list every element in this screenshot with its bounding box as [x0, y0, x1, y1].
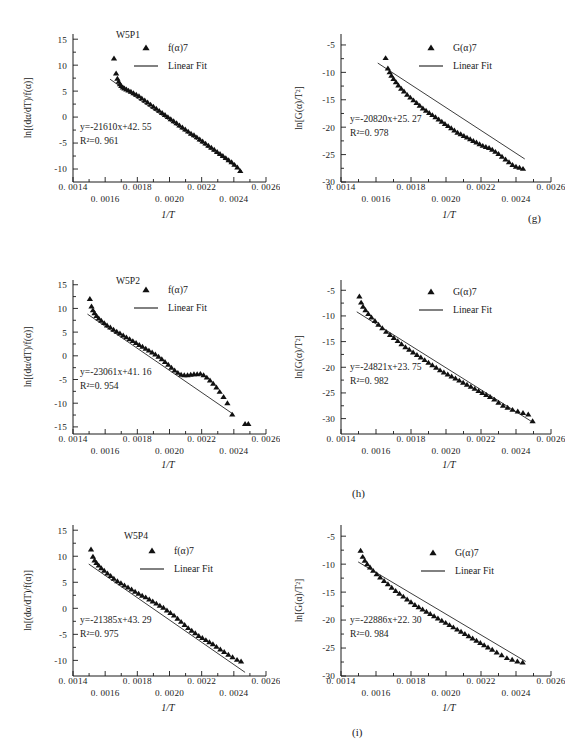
- x-tick-label: 0. 0026: [252, 182, 280, 192]
- data-point-marker: [113, 71, 119, 76]
- linear-fit-line: [358, 562, 525, 662]
- y-tick-label: 0: [62, 604, 67, 614]
- y-tick-label: -5: [59, 375, 67, 385]
- x-tick-label: 0. 0016: [91, 688, 120, 698]
- y-tick-label: -30: [322, 414, 335, 424]
- y-tick-label: 10: [57, 304, 67, 314]
- chart-legend: f(α)7Linear Fit: [134, 42, 207, 71]
- x-tick-label: 0. 0014: [59, 434, 88, 444]
- x-tick-label: 0. 0026: [252, 676, 280, 686]
- y-tick-label: -15: [322, 95, 335, 105]
- chart-i-left-svg: 151050-5-100. 00140. 00160. 00180. 00200…: [18, 513, 280, 725]
- legend-label-series: G(α)7: [453, 42, 477, 54]
- legend-marker-icon: [142, 287, 149, 293]
- y-tick-label: -25: [322, 643, 335, 653]
- legend-label-fit: Linear Fit: [168, 302, 207, 313]
- chart-legend: f(α)7Linear Fit: [134, 284, 207, 313]
- chart-panel-g-left: 151050-5-100. 00140. 00160. 00180. 00200…: [18, 22, 280, 232]
- x-tick-label: 0. 0024: [219, 688, 248, 698]
- data-point-marker: [499, 652, 505, 657]
- legend-label-series: f(α)7: [168, 42, 188, 54]
- x-tick-label: 0. 0024: [502, 194, 531, 204]
- legend-label-fit: Linear Fit: [455, 565, 494, 576]
- data-series-markers: [88, 547, 244, 664]
- y-tick-label: -15: [322, 588, 335, 598]
- legend-label-fit: Linear Fit: [453, 60, 492, 71]
- chart-h-left-svg: 151050-5-10-150. 00140. 00160. 00180. 00…: [18, 268, 280, 483]
- r-squared-label: R²=0. 978: [350, 127, 389, 138]
- x-tick-label: 0. 0018: [123, 182, 152, 192]
- legend-label-series: f(α)7: [174, 545, 194, 557]
- data-point-marker: [220, 394, 226, 399]
- y-tick-label: -10: [322, 68, 335, 78]
- x-tick-label: 0. 0018: [397, 434, 426, 444]
- x-tick-label: 0. 0020: [155, 688, 184, 698]
- x-tick-label: 0. 0026: [537, 434, 565, 444]
- y-tick-label: 5: [62, 87, 67, 97]
- chart-legend: G(α)7Linear Fit: [421, 547, 494, 576]
- data-point-marker: [114, 76, 120, 81]
- x-tick-label: 0. 0022: [187, 182, 216, 192]
- data-point-marker: [520, 660, 526, 665]
- x-tick-label: 0. 0022: [187, 434, 216, 444]
- fit-equation-label: y=-21385x+43. 29: [80, 614, 152, 625]
- y-tick-label: 0: [62, 351, 67, 361]
- y-tick-label: -15: [54, 422, 67, 432]
- legend-label-fit: Linear Fit: [453, 304, 492, 315]
- data-point-marker: [520, 410, 526, 415]
- legend-label-series: G(α)7: [455, 547, 479, 559]
- x-tick-label: 0. 0024: [219, 194, 248, 204]
- panel-letter-g: (g): [528, 212, 541, 224]
- y-axis-title: ln[(dα/dT)/f(α)]: [22, 327, 34, 388]
- y-tick-label: -5: [59, 138, 67, 148]
- x-tick-label: 0. 0014: [59, 182, 88, 192]
- y-tick-label: -20: [322, 123, 335, 133]
- x-tick-label: 0. 0020: [432, 194, 461, 204]
- y-axis-title: ln[(dα/dT)/f(α)]: [22, 78, 34, 139]
- x-tick-label: 0. 0016: [91, 446, 120, 456]
- y-tick-label: 15: [57, 526, 67, 536]
- y-tick-label: -5: [327, 286, 335, 296]
- chart-legend: G(α)7Linear Fit: [419, 286, 492, 315]
- x-tick-label: 0. 0026: [537, 676, 565, 686]
- data-series-markers: [357, 548, 525, 665]
- chart-panel-i-left: 151050-5-100. 00140. 00160. 00180. 00200…: [18, 513, 280, 725]
- x-tick-label: 0. 0020: [155, 446, 184, 456]
- y-tick-label: -10: [54, 656, 67, 666]
- x-tick-label: 0. 0016: [362, 446, 391, 456]
- data-point-marker: [356, 293, 362, 298]
- sample-label: W5P1: [116, 29, 140, 40]
- x-tick-label: 0. 0026: [537, 182, 565, 192]
- legend-marker-icon: [427, 45, 434, 51]
- chart-panel-g-right: -5-10-15-20-25-300. 00140. 00160. 00180.…: [293, 22, 565, 232]
- x-axis-title: 1/T: [161, 209, 176, 220]
- fit-equation-label: y=-20820x+25. 27: [350, 113, 422, 124]
- x-tick-label: 0. 0018: [397, 182, 426, 192]
- y-tick-label: 15: [57, 280, 67, 290]
- y-tick-label: -5: [327, 40, 335, 50]
- y-tick-label: -20: [322, 363, 335, 373]
- data-point-marker: [358, 300, 364, 305]
- data-point-marker: [514, 659, 520, 664]
- y-tick-label: 10: [57, 61, 67, 71]
- data-point-marker: [88, 547, 94, 552]
- y-tick-label: -25: [322, 150, 335, 160]
- data-series-markers: [356, 293, 536, 423]
- x-tick-label: 0. 0018: [397, 676, 426, 686]
- chart-h-right-svg: -5-10-15-20-25-300. 00140. 00160. 00180.…: [293, 268, 565, 483]
- x-tick-label: 0. 0024: [502, 688, 531, 698]
- linear-fit-line: [378, 63, 525, 159]
- r-squared-label: R²=0. 961: [80, 135, 119, 146]
- x-axis-title: 1/T: [161, 459, 176, 470]
- fit-equation-label: y=-21610x+42. 55: [80, 121, 152, 132]
- x-tick-label: 0. 0024: [219, 446, 248, 456]
- x-tick-label: 0. 0018: [123, 676, 152, 686]
- r-squared-label: R²=0. 975: [80, 628, 119, 639]
- x-tick-label: 0. 0020: [432, 446, 461, 456]
- data-point-marker: [90, 554, 96, 559]
- data-point-marker: [515, 408, 521, 413]
- fit-equation-label: y=-22886x+22. 30: [350, 614, 422, 625]
- r-squared-label: R²=0. 954: [80, 380, 119, 391]
- data-point-marker: [88, 304, 94, 309]
- x-tick-label: 0. 0022: [467, 676, 496, 686]
